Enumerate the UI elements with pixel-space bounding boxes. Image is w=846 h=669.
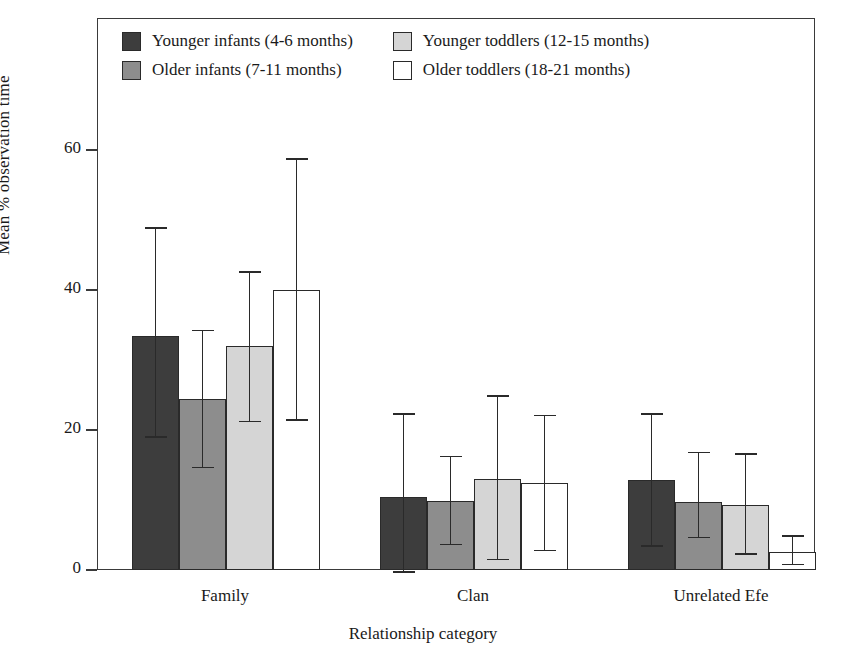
y-tick-mark xyxy=(86,149,97,151)
error-bar-cap-top xyxy=(393,413,415,415)
error-bar-cap-top xyxy=(440,456,462,458)
legend-label: Younger infants (4-6 months) xyxy=(152,30,353,52)
error-bar-clan-series-2 xyxy=(474,395,521,560)
y-axis-title: Mean % observation time xyxy=(0,0,14,255)
error-bar-stem xyxy=(249,271,251,422)
y-tick-label: 60 xyxy=(64,137,81,159)
error-bar-stem xyxy=(155,227,157,438)
y-tick-label: 40 xyxy=(64,277,81,299)
error-bar-stem xyxy=(792,535,794,565)
y-tick-label: 0 xyxy=(73,557,82,579)
legend-label: Older toddlers (18-21 months) xyxy=(423,59,630,81)
error-bar-unrelated-efe-series-2 xyxy=(722,453,769,555)
chart-legend: Younger infants (4-6 months)Younger todd… xyxy=(122,30,649,81)
error-bar-stem xyxy=(497,395,499,560)
error-bar-cap-top xyxy=(782,535,804,537)
error-bar-cap-top xyxy=(286,158,308,160)
y-tick-mark xyxy=(86,569,97,571)
error-bar-clan-series-3 xyxy=(521,415,568,552)
error-bar-stem xyxy=(403,413,405,573)
y-tick-20: 20 xyxy=(0,429,97,430)
error-bar-cap-bottom xyxy=(393,571,415,573)
y-tick-mark xyxy=(86,289,97,291)
error-bar-unrelated-efe-series-3 xyxy=(769,535,816,565)
legend-item-0[interactable]: Younger infants (4-6 months) xyxy=(122,30,353,52)
legend-label: Younger toddlers (12-15 months) xyxy=(423,30,649,52)
error-bar-cap-bottom xyxy=(145,436,167,438)
error-bar-cap-bottom xyxy=(735,553,757,555)
y-tick-40: 40 xyxy=(0,289,97,290)
error-bar-family-series-1 xyxy=(179,330,226,469)
error-bar-stem xyxy=(698,452,700,539)
error-bar-family-series-2 xyxy=(226,271,273,422)
error-bar-cap-bottom xyxy=(192,467,214,469)
legend-item-1[interactable]: Older infants (7-11 months) xyxy=(122,59,353,81)
y-axis-title-text: Mean % observation time xyxy=(0,75,14,255)
error-bar-cap-bottom xyxy=(782,564,804,566)
error-bar-cap-bottom xyxy=(534,550,556,552)
x-tick-label-clan: Clan xyxy=(383,586,563,606)
error-bar-cap-top xyxy=(145,227,167,229)
error-bar-stem xyxy=(651,413,653,547)
error-bar-cap-bottom xyxy=(688,537,710,539)
error-bar-stem xyxy=(296,158,298,421)
y-tick-mark xyxy=(86,429,97,431)
legend-item-3[interactable]: Older toddlers (18-21 months) xyxy=(393,59,649,81)
error-bar-cap-top xyxy=(534,415,556,417)
x-tick-label-unrelated-efe: Unrelated Efe xyxy=(631,586,811,606)
error-bar-family-series-0 xyxy=(132,227,179,438)
error-bar-cap-bottom xyxy=(239,421,261,423)
error-bar-cap-top xyxy=(641,413,663,415)
error-bar-clan-series-1 xyxy=(427,456,474,546)
error-bar-cap-top xyxy=(735,453,757,455)
x-axis-title: Relationship category xyxy=(0,624,846,644)
error-bar-stem xyxy=(202,330,204,469)
error-bar-stem xyxy=(745,453,747,555)
error-bar-cap-top xyxy=(487,395,509,397)
legend-item-2[interactable]: Younger toddlers (12-15 months) xyxy=(393,30,649,52)
legend-label: Older infants (7-11 months) xyxy=(152,59,342,81)
y-tick-0: 0 xyxy=(0,569,97,570)
error-bar-family-series-3 xyxy=(273,158,320,421)
x-axis-title-text: Relationship category xyxy=(349,624,498,643)
x-tick-label-family: Family xyxy=(135,586,315,606)
legend-swatch-younger-infants-icon xyxy=(122,32,141,51)
y-tick-60: 60 xyxy=(0,149,97,150)
error-bar-cap-top xyxy=(192,330,214,332)
error-bar-cap-top xyxy=(239,271,261,273)
plot-area xyxy=(97,18,815,570)
error-bar-unrelated-efe-series-0 xyxy=(628,413,675,547)
error-bar-clan-series-0 xyxy=(380,413,427,573)
error-bar-cap-bottom xyxy=(440,544,462,546)
error-bar-stem xyxy=(450,456,452,546)
error-bar-cap-bottom xyxy=(286,419,308,421)
error-bar-unrelated-efe-series-1 xyxy=(675,452,722,539)
legend-swatch-younger-toddlers-icon xyxy=(393,32,412,51)
error-bar-cap-bottom xyxy=(487,559,509,561)
legend-swatch-older-toddlers-icon xyxy=(393,61,412,80)
chart-figure: Mean % observation time 0204060 FamilyCl… xyxy=(0,0,846,669)
legend-swatch-older-infants-icon xyxy=(122,61,141,80)
error-bar-cap-bottom xyxy=(641,545,663,547)
error-bar-stem xyxy=(544,415,546,552)
y-tick-label: 20 xyxy=(64,417,81,439)
error-bar-cap-top xyxy=(688,452,710,454)
